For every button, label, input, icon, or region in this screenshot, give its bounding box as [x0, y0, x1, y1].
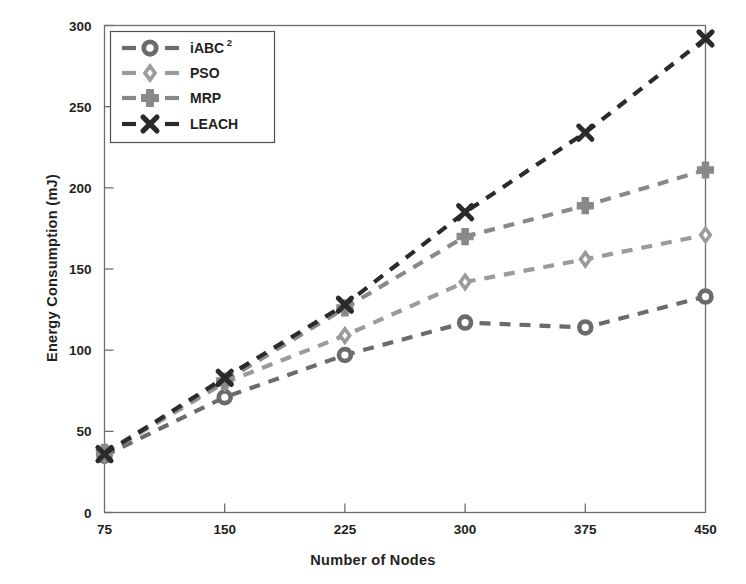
chart-legend: iABC2PSOMRPLEACH	[111, 32, 275, 143]
marker-inner	[146, 44, 154, 52]
legend-label: PSO	[190, 65, 220, 81]
legend-label: MRP	[190, 90, 221, 106]
marker-inner	[221, 394, 228, 401]
x-tick-label: 150	[213, 522, 236, 537]
legend-label: LEACH	[190, 116, 238, 132]
y-tick-label: 200	[69, 181, 92, 196]
y-tick-label: 100	[69, 343, 92, 358]
x-axis-label: Number of Nodes	[0, 552, 746, 568]
y-tick-label: 150	[69, 262, 92, 277]
marker-inner	[702, 293, 709, 300]
y-tick-label: 50	[76, 424, 91, 439]
x-tick-label: 75	[97, 522, 113, 537]
y-tick-label: 300	[69, 19, 92, 34]
chart-figure: 050100150200250300 75150225300375450 iAB…	[0, 0, 746, 584]
y-axis-label: Energy Consumption (mJ)	[44, 98, 60, 438]
x-tick-label: 225	[334, 522, 357, 537]
marker-inner	[582, 324, 589, 331]
chart-canvas: 050100150200250300 75150225300375450 iAB…	[0, 0, 746, 584]
marker-inner	[341, 351, 348, 358]
y-tick-label: 250	[69, 100, 92, 115]
x-tick-label: 450	[694, 522, 717, 537]
legend-label: iABC	[190, 40, 224, 56]
x-tick-label: 300	[454, 522, 477, 537]
marker-inner	[462, 319, 469, 326]
y-tick-label: 0	[84, 506, 92, 521]
legend-label-superscript: 2	[227, 37, 232, 48]
x-tick-label: 375	[574, 522, 597, 537]
